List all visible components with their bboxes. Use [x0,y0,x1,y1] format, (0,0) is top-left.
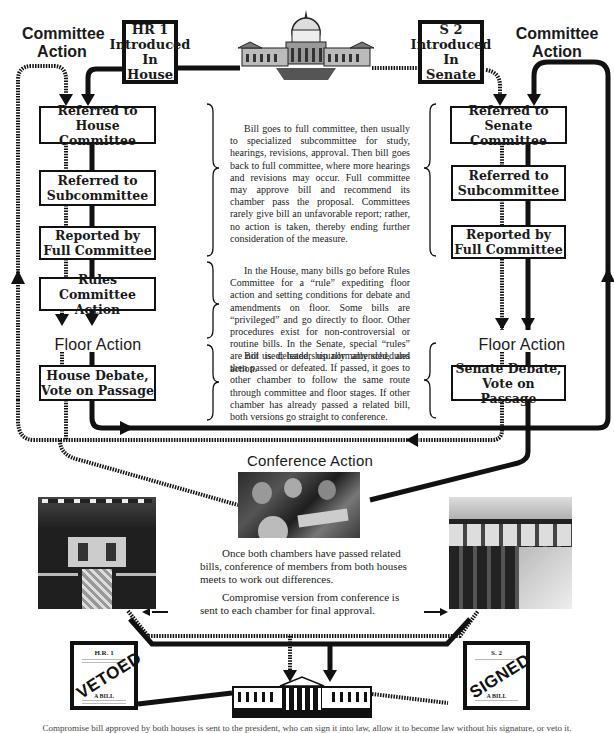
floor-action-heading-left: Floor Action [38,336,158,354]
house-step-reported-full-committee: Reported by Full Committee [39,226,156,260]
senate-bill-signed-document: S. 2 SIGNED A BILL [463,641,530,710]
senate-step-debate-vote: Senate Debate, Vote on Passage [451,365,566,401]
house-bill-vetoed-document: H.R. 1 VETOED A BILL [70,641,138,710]
conference-description: Once both chambers have passed related b… [200,547,414,586]
senate-step-referred-subcommittee: Referred to Subcommittee [451,165,566,201]
hr1-introduced-box: HR 1 Introduced In House [122,20,178,84]
compromise-description: Compromise version from conference is se… [200,591,414,617]
conference-action-heading: Conference Action [220,452,400,469]
senate-step-referred-committee: Referred to Senate Committee [450,106,567,144]
conference-photo [238,472,360,538]
committee-action-heading-right: Committee Action [512,25,602,61]
s2-label: S 2 [440,22,463,37]
committee-description: Bill goes to full committee, then usuall… [230,123,410,245]
hr1-label: HR 1 [132,22,169,37]
floor-action-heading-right: Floor Action [462,336,582,354]
house-step-referred-committee: Referred to House Committee [39,106,156,144]
house-step-debate-vote: House Debate, Vote on Passage [39,365,156,401]
house-step-referred-subcommittee: Referred to Subcommittee [39,170,156,206]
bottom-caption: Compromise bill approved by both houses … [0,723,614,733]
floor-description: Bill is debated, usually amended, and th… [230,350,410,423]
white-house-icon [232,674,372,718]
committee-action-heading-left: Committee Action [22,25,102,61]
senate-chamber-photo [449,497,572,609]
senate-step-reported-full-committee: Reported by Full Committee [451,225,566,259]
house-step-rules-committee: Rules Committee Action [39,277,156,311]
house-chamber-photo [38,497,156,609]
capitol-building-icon [236,8,376,82]
s2-introduced-box: S 2 Introduced In Senate [418,20,484,84]
